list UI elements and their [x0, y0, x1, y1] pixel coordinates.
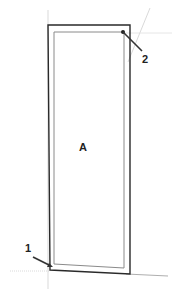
diagram-canvas: 2 1 A — [0, 0, 182, 289]
ground-line — [126, 274, 168, 276]
outer-panel-outline — [48, 25, 130, 274]
callout-1-label: 1 — [25, 242, 31, 254]
callout-2-label: 2 — [142, 53, 148, 65]
panel-label-a: A — [79, 141, 87, 153]
inner-panel-outline — [54, 32, 124, 268]
